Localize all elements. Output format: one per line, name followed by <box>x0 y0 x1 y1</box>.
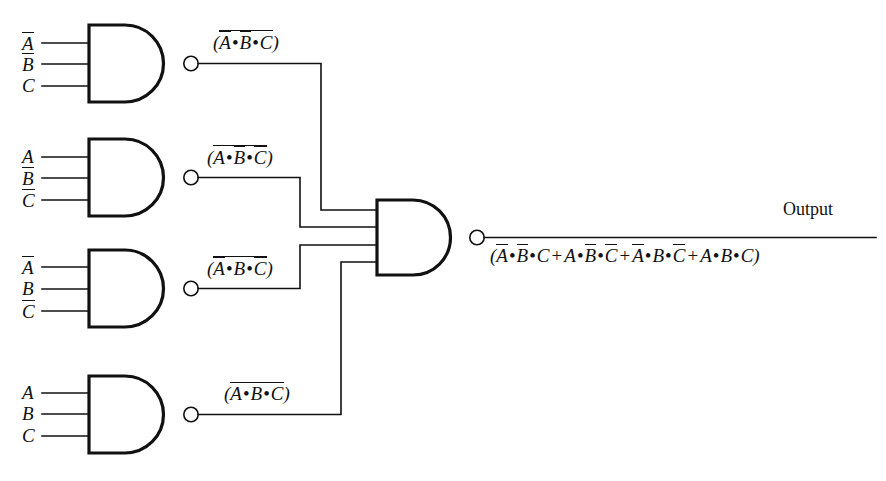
gate-4-input-label-3: C <box>22 426 35 445</box>
gate-3-output-overbar: A•B•C <box>213 257 266 278</box>
plain-span: B <box>234 259 246 278</box>
overbar-span: B <box>585 245 597 265</box>
plain-span: A <box>230 384 242 403</box>
circuit-svg <box>0 0 886 481</box>
and-dot: • <box>225 147 234 168</box>
and-dot: • <box>664 245 673 266</box>
gate-2-output-overbar: A•B•C <box>213 146 266 167</box>
overbar-span: A <box>22 257 34 277</box>
gate-1-input-label-1: A <box>22 33 34 53</box>
plain-span: C <box>260 33 273 52</box>
overbar-span: A <box>496 245 508 265</box>
output-expression: (A•B•C+A•B•C+A•B•C+A•B•C) <box>490 245 760 265</box>
and-dot: • <box>508 245 517 266</box>
gate-3-input-label-2: B <box>22 279 34 298</box>
overbar-span: B <box>517 245 529 265</box>
overbar-span: B <box>22 168 34 188</box>
overbar-span: B <box>240 32 252 52</box>
and-dot: • <box>644 245 653 266</box>
overbar-span: C <box>254 147 267 167</box>
gate-4-group <box>42 262 377 453</box>
plain-span: B <box>251 384 263 403</box>
gate-4-inversion-bubble <box>184 407 198 421</box>
and-dot: • <box>596 245 605 266</box>
overbar-span: C <box>22 190 35 210</box>
overbar-span: A <box>213 258 225 278</box>
close-paren: ) <box>273 32 279 53</box>
and-dot: • <box>245 258 254 279</box>
or-plus: + <box>685 245 700 266</box>
and-dot: • <box>732 245 741 266</box>
gate-2-output-wire <box>198 178 377 228</box>
gate-3-input-label-3: C <box>22 301 35 321</box>
and-dot: • <box>225 258 234 279</box>
overbar-span: A <box>219 32 231 52</box>
gate-1-group <box>42 25 377 210</box>
and-dot: • <box>262 383 271 404</box>
overbar-span: A <box>22 33 34 53</box>
gate-4-input-label-1: A <box>22 383 34 402</box>
overbar-span: C <box>605 245 618 265</box>
output-label: Output <box>783 200 833 218</box>
gate-4-output-label: (A•B•C) <box>224 383 290 403</box>
gate-2-inversion-bubble <box>184 170 198 184</box>
and-dot: • <box>242 383 251 404</box>
gate-1-output-wire <box>198 64 377 211</box>
gate-3-input-label-1: A <box>22 257 34 277</box>
overbar-span: B <box>22 54 34 74</box>
plain-span: C <box>741 246 754 265</box>
and-dot: • <box>528 245 537 266</box>
overbar-span: B <box>234 147 246 167</box>
overbar-span: C <box>673 245 686 265</box>
plain-span: A <box>213 148 225 167</box>
gate-2-input-label-3: C <box>22 190 35 210</box>
gate-1-input-label-3: C <box>22 76 35 95</box>
and-dot: • <box>245 147 254 168</box>
and-dot: • <box>251 32 260 53</box>
gate-2-body <box>89 139 164 216</box>
plain-span: B <box>22 404 34 423</box>
close-paren: ) <box>267 147 273 168</box>
gate-2-input-label-2: B <box>22 168 34 188</box>
output-gate-inversion-bubble <box>470 230 484 244</box>
gate-2-output-label: (A•B•C) <box>207 146 273 167</box>
and-dot: • <box>712 245 721 266</box>
plain-span: A <box>700 246 712 265</box>
or-plus: + <box>550 245 565 266</box>
and-dot: • <box>231 32 240 53</box>
gate-3-inversion-bubble <box>184 281 198 295</box>
plain-span: C <box>22 76 35 95</box>
plain-span: C <box>537 246 550 265</box>
or-plus: + <box>617 245 632 266</box>
gate-4-output-overbar: A•B•C <box>230 383 283 403</box>
gate-4-input-label-2: B <box>22 404 34 423</box>
gate-1-output-label: (A•B•C) <box>213 31 279 52</box>
gate-3-body <box>89 250 164 327</box>
gate-4-body <box>89 376 164 453</box>
output-gate-body <box>377 200 451 275</box>
plain-span: A <box>22 383 34 402</box>
overbar-span: C <box>254 258 267 278</box>
and-dot: • <box>576 245 585 266</box>
plain-span: C <box>271 384 284 403</box>
gate-1-input-label-2: B <box>22 54 34 74</box>
overbar-span: A <box>632 245 644 265</box>
plain-span: B <box>652 246 664 265</box>
logic-circuit-diagram: A B C (A•B•C) A B C (A•B•C) A B C (A•B•C… <box>0 0 886 481</box>
gate-1-body <box>89 25 164 102</box>
close-paren: ) <box>753 245 759 266</box>
plain-span: B <box>22 279 34 298</box>
gate-3-output-label: (A•B•C) <box>207 257 273 278</box>
plain-span: B <box>720 246 732 265</box>
close-paren: ) <box>284 383 290 404</box>
plain-span: A <box>564 246 576 265</box>
overbar-span: C <box>22 301 35 321</box>
plain-span: A <box>22 147 34 166</box>
gate-1-output-overbar: A•B•C <box>219 31 272 52</box>
plain-span: C <box>22 426 35 445</box>
gate-1-inversion-bubble <box>184 56 198 70</box>
close-paren: ) <box>267 258 273 279</box>
gate-2-input-label-1: A <box>22 147 34 166</box>
